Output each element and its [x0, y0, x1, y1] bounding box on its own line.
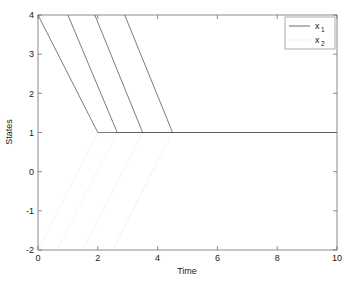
legend-label-x1: x	[315, 21, 320, 31]
x-axis-title: Time	[177, 266, 197, 276]
y-axis-title: States	[4, 119, 14, 145]
plot-canvas: 0246810 -2-101234 Time States x 1 x 2	[0, 0, 353, 284]
x-tick-label: 6	[215, 253, 220, 263]
legend-label-x2: x	[315, 35, 320, 45]
x-tick-label: 8	[275, 253, 280, 263]
x-tick-label: 4	[155, 253, 160, 263]
legend-box	[285, 17, 335, 49]
chart-figure: 0246810 -2-101234 Time States x 1 x 2	[0, 0, 353, 284]
y-tick-label: 0	[29, 167, 34, 177]
y-tick-label: 2	[29, 89, 34, 99]
x-tick-label: 10	[332, 253, 342, 263]
y-tick-label: -2	[26, 245, 34, 255]
y-tick-label: 3	[29, 49, 34, 59]
x-tick-label: 2	[95, 253, 100, 263]
legend: x 1 x 2	[285, 17, 335, 49]
x-tick-label: 0	[35, 253, 40, 263]
legend-sublabel-x2: 2	[321, 40, 325, 47]
y-tick-label: 1	[29, 128, 34, 138]
y-tick-label: 4	[29, 10, 34, 20]
y-tick-label: -1	[26, 206, 34, 216]
legend-sublabel-x1: 1	[321, 26, 325, 33]
